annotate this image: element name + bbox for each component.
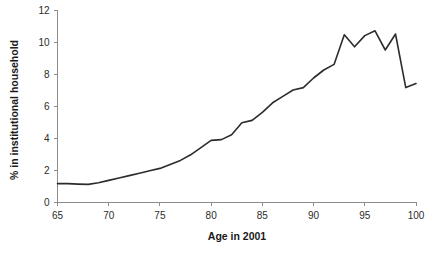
x-axis-title: Age in 2001: [208, 230, 267, 242]
y-axis-title: % in institutional household: [8, 40, 20, 180]
y-tick-label: 6: [44, 101, 50, 112]
x-tick-label: 75: [154, 210, 166, 221]
y-axis-tick-labels: 024681012: [38, 5, 50, 208]
x-tick-label: 85: [257, 210, 269, 221]
x-axis-tick-labels: 65707580859095100: [52, 210, 425, 221]
x-tick-label: 65: [52, 210, 64, 221]
y-tick-label: 8: [44, 69, 50, 80]
y-tick-label: 12: [38, 5, 50, 16]
y-tick-label: 4: [44, 133, 50, 144]
x-tick-label: 90: [308, 210, 320, 221]
data-series-line: [58, 31, 417, 185]
x-tick-label: 100: [408, 210, 425, 221]
line-chart: 024681012 65707580859095100 Age in 2001 …: [0, 0, 436, 254]
chart-container: 024681012 65707580859095100 Age in 2001 …: [0, 0, 436, 254]
x-tick-label: 95: [359, 210, 371, 221]
y-tick-label: 10: [38, 37, 50, 48]
x-tick-label: 70: [103, 210, 115, 221]
x-tick-label: 80: [206, 210, 218, 221]
y-tick-label: 2: [44, 165, 50, 176]
y-tick-label: 0: [44, 197, 50, 208]
y-axis-ticks: [54, 10, 58, 202]
